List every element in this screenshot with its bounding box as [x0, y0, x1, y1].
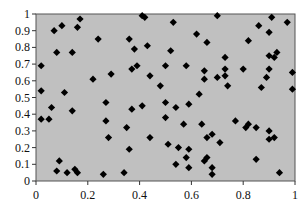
x-tick-label: 0	[33, 188, 39, 202]
x-tick-label: 1	[292, 188, 298, 202]
y-tick-label: 0.2	[15, 141, 30, 155]
y-tick-label: 0.4	[15, 107, 30, 121]
y-tick-label: 0.9	[15, 24, 30, 38]
x-tick-label: 0.8	[236, 188, 251, 202]
x-axis: 00.20.40.60.81	[33, 181, 298, 202]
y-tick-label: 0.8	[15, 40, 30, 54]
y-tick-label: 0	[24, 174, 30, 188]
y-tick-label: 0.6	[15, 74, 30, 88]
scatter-chart: 00.10.20.30.40.50.60.70.80.91 00.20.40.6…	[0, 0, 307, 206]
y-tick-label: 0.7	[15, 57, 30, 71]
x-tick-label: 0.2	[80, 188, 95, 202]
y-tick-label: 0.3	[15, 124, 30, 138]
y-axis: 00.10.20.30.40.50.60.70.80.91	[15, 7, 36, 188]
x-tick-label: 0.6	[184, 188, 199, 202]
y-tick-label: 0.1	[15, 157, 30, 171]
x-tick-label: 0.4	[132, 188, 147, 202]
y-tick-label: 0.5	[15, 91, 30, 105]
y-tick-label: 1	[24, 7, 30, 21]
